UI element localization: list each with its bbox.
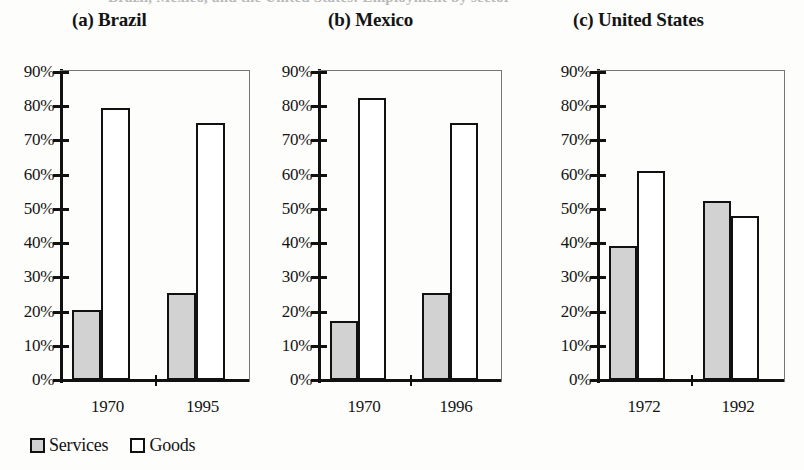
y-axis-labels: 90%80%70%60%50%40%30%20%10%0%	[537, 72, 591, 380]
bar-goods-1970	[101, 108, 130, 380]
goods-swatch	[130, 438, 145, 453]
y-tick-label: 0%	[569, 370, 591, 390]
plot-top-border	[597, 70, 785, 71]
y-tick-label: 10%	[561, 336, 591, 356]
plot-area	[597, 72, 785, 380]
bar-goods-1992	[731, 216, 759, 380]
y-axis-tick	[590, 174, 606, 177]
bar-goods-1970	[358, 98, 386, 380]
x-tick-label: 1992	[721, 397, 754, 417]
legend-item-goods: Goods	[130, 435, 195, 456]
x-tick-label: 1972	[627, 397, 660, 417]
y-axis-tick	[590, 379, 606, 382]
y-axis-tick	[590, 71, 606, 74]
bar-services-1972	[609, 246, 637, 380]
cut-off-caption: Brazil, Mexico, and the United States: E…	[0, 0, 804, 9]
y-axis-spine	[597, 69, 600, 383]
bar-services-1992	[703, 201, 731, 380]
panel-title: (c) United States	[573, 9, 704, 31]
y-axis-tick	[590, 242, 606, 245]
legend-label: Services	[49, 435, 108, 456]
y-axis-tick	[590, 345, 606, 348]
plot-right-border	[784, 70, 785, 382]
y-axis-tick	[590, 105, 606, 108]
chart-legend: ServicesGoods	[30, 432, 195, 458]
x-axis-group-separator	[691, 375, 693, 386]
y-tick-label: 70%	[561, 130, 591, 150]
legend-label: Goods	[149, 435, 195, 456]
y-tick-label: 40%	[561, 233, 591, 253]
bar-services-1996	[422, 293, 450, 380]
y-tick-label: 80%	[561, 96, 591, 116]
y-tick-label: 50%	[561, 199, 591, 219]
bar-goods-1972	[637, 171, 665, 380]
bar-services-1970	[72, 310, 101, 380]
y-axis-tick	[590, 276, 606, 279]
y-axis-tick	[590, 208, 606, 211]
bar-services-1970	[330, 321, 358, 380]
y-tick-label: 20%	[561, 302, 591, 322]
cut-off-caption-text: Brazil, Mexico, and the United States: E…	[108, 0, 511, 6]
services-swatch	[30, 438, 45, 453]
y-tick-label: 30%	[561, 267, 591, 287]
chart-panel-row: (a) Brazil90%80%70%60%50%40%30%20%10%0%1…	[0, 9, 804, 419]
legend-item-services: Services	[30, 435, 108, 456]
bar-goods-1996	[450, 123, 478, 380]
y-tick-label: 90%	[561, 62, 591, 82]
y-tick-label: 60%	[561, 165, 591, 185]
bar-goods-1995	[196, 123, 225, 380]
bar-services-1995	[167, 293, 196, 380]
y-axis-tick	[590, 311, 606, 314]
y-axis-tick	[590, 139, 606, 142]
